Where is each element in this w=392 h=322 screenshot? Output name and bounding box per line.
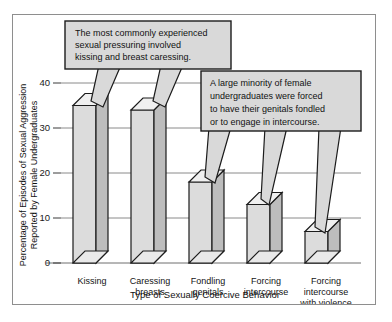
callout-1-line-1: The most commonly experienced	[75, 28, 208, 38]
x-axis-title: Type of Sexually Coercive Behavior	[130, 289, 280, 300]
callout-2-line-3: to have their genitals fondled	[210, 104, 325, 114]
y-axis-title: Percentage of Episodes of Sexual Aggress…	[18, 84, 39, 267]
callout-tail-to-forcing-violence	[315, 127, 341, 233]
callout-2-line-1: A large minority of female	[210, 78, 312, 88]
cat-label-line: with violence	[299, 298, 352, 304]
y-axis-title-line1: Percentage of Episodes of Sexual Aggress…	[18, 84, 28, 267]
bar-side-face	[154, 98, 166, 263]
figure-page: 40 30 20 10 0 Percentage of Episodes of …	[0, 0, 392, 322]
callout-1: The most commonly experienced sexual pre…	[65, 21, 231, 69]
cat-label-line: Fondling	[191, 276, 226, 286]
cat-label-line: Kissing	[77, 276, 106, 286]
ytick-label-20: 20	[39, 167, 50, 178]
figure-frame: 40 30 20 10 0 Percentage of Episodes of …	[12, 14, 376, 305]
bar-front-face	[131, 110, 154, 263]
callout-2-line-4: or to engage in intercourse.	[210, 117, 320, 127]
bar-front-face	[73, 106, 96, 264]
callout-2: A large minority of female undergraduate…	[201, 71, 361, 131]
bar-side-face	[212, 170, 224, 263]
ytick-label-10: 10	[39, 212, 50, 223]
callout-tail-to-fondling	[205, 127, 231, 183]
cat-label-line: intercourse	[304, 287, 349, 297]
callout-1-line-2: sexual pressuring involved	[75, 40, 181, 50]
bar-fondling-genitals	[189, 170, 224, 263]
callout-kissing-breasts-tails	[91, 65, 183, 107]
cat-label-line: Forcing	[311, 276, 341, 286]
callout-tail-to-caressing	[153, 65, 183, 107]
bar-chart: 40 30 20 10 0 Percentage of Episodes of …	[13, 15, 375, 304]
cat-label-line: Forcing	[251, 276, 281, 286]
bar-kissing	[73, 94, 108, 264]
bar-caressing-breasts	[131, 98, 166, 263]
category-label-kissing: Kissing	[77, 276, 106, 286]
callout-1-line-3: kissing and breast caressing.	[75, 52, 191, 62]
category-label-forcing-intercourse-with-violence: Forcing intercourse with violence	[299, 276, 352, 304]
cat-label-line: Caressing	[130, 276, 171, 286]
callout-2-line-2: undergraduates were forced	[210, 91, 323, 101]
bar-forcing-intercourse	[247, 193, 282, 264]
ytick-label-40: 40	[39, 77, 50, 88]
ytick-label-30: 30	[39, 122, 50, 133]
y-axis-ticks	[53, 83, 61, 263]
bar-side-face	[96, 94, 108, 264]
ytick-label-0: 0	[45, 257, 50, 268]
y-axis-title-line2: Reported by Female Undergraduates	[29, 100, 39, 249]
callout-tail-to-kissing	[91, 65, 121, 107]
